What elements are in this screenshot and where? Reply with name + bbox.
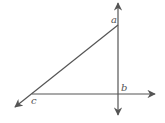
point-label-b: b [121,82,127,93]
point-label-c: c [31,95,37,106]
point-label-a: a [111,14,117,25]
geometry-diagram: a b c [0,0,165,123]
